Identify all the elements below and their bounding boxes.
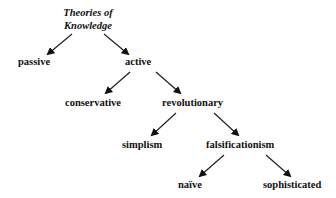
root-node-theories-of-knowledge: Theories of Knowledge	[56, 6, 120, 32]
node-active: active	[125, 56, 151, 68]
edge-root-passive	[48, 34, 72, 54]
node-sophisticated: sophisticated	[263, 179, 321, 191]
edge-revolutionary-simplism	[152, 113, 176, 135]
node-simplism: simplism	[122, 139, 162, 151]
root-line-2: Knowledge	[56, 19, 120, 32]
edge-falsificationism-naive	[200, 155, 224, 176]
edge-root-active	[104, 34, 128, 54]
edge-falsificationism-sophisticated	[266, 155, 290, 176]
node-revolutionary: revolutionary	[162, 97, 223, 109]
edge-revolutionary-falsificationism	[214, 113, 238, 135]
root-line-1: Theories of	[56, 6, 120, 19]
edge-active-conservative	[106, 72, 130, 93]
node-conservative: conservative	[65, 97, 121, 109]
edge-active-revolutionary	[156, 72, 180, 93]
node-passive: passive	[18, 56, 50, 68]
node-falsificationism: falsificationism	[206, 139, 274, 151]
node-naive: naïve	[178, 179, 202, 191]
